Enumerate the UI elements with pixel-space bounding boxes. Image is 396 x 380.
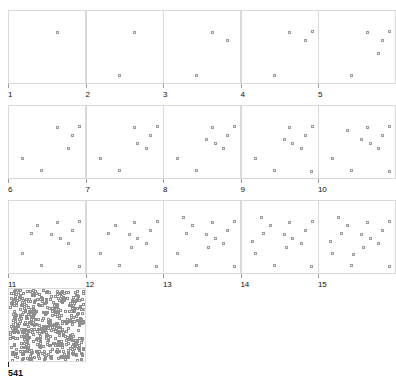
data-point <box>22 311 25 314</box>
data-point <box>21 157 24 160</box>
data-point <box>191 224 194 227</box>
data-point <box>211 221 214 224</box>
panel-label-5: 5 <box>318 90 322 99</box>
data-point <box>254 252 257 255</box>
data-point <box>40 264 43 267</box>
data-point <box>207 246 210 249</box>
data-point <box>26 290 29 293</box>
summary-panel-tick <box>8 362 9 367</box>
data-point <box>13 304 16 307</box>
data-point <box>81 353 84 356</box>
data-point <box>388 125 391 128</box>
data-point <box>211 31 214 34</box>
data-point <box>155 265 158 268</box>
data-point <box>133 126 136 129</box>
panel-tick <box>163 84 164 88</box>
data-point <box>288 31 291 34</box>
data-point <box>360 138 363 141</box>
data-point <box>10 292 13 295</box>
data-point <box>67 242 70 245</box>
panel-tick <box>8 179 9 183</box>
data-point <box>65 339 68 342</box>
data-point <box>44 313 47 316</box>
data-point <box>19 315 22 318</box>
scatter-panel-box <box>86 200 164 274</box>
data-point <box>61 320 64 323</box>
data-point <box>15 348 18 351</box>
panel-label-15: 15 <box>318 280 327 289</box>
panel-tick <box>318 84 319 88</box>
data-point <box>366 221 369 224</box>
scatter-panel-6: 6 <box>8 105 86 179</box>
data-point <box>20 335 23 338</box>
data-point <box>130 246 133 249</box>
data-point <box>63 355 66 358</box>
data-point <box>76 319 79 322</box>
data-point <box>24 346 27 349</box>
data-point <box>64 358 67 361</box>
data-point <box>46 306 49 309</box>
panel-label-1: 1 <box>8 90 12 99</box>
data-point <box>72 350 75 353</box>
data-point <box>331 157 334 160</box>
data-point <box>49 324 52 327</box>
data-point <box>16 324 19 327</box>
scatter-panel-4: 4 <box>241 10 319 84</box>
scatter-panel-14: 14 <box>241 200 319 274</box>
data-point <box>81 338 84 341</box>
data-point <box>69 320 72 323</box>
data-point <box>56 293 59 296</box>
data-point <box>222 147 225 150</box>
data-point <box>288 126 291 129</box>
data-point <box>18 296 21 299</box>
scatter-panel-box <box>8 105 86 179</box>
data-point <box>21 331 24 334</box>
data-point <box>99 157 102 160</box>
data-point <box>80 308 83 311</box>
data-point <box>12 319 15 322</box>
data-point <box>331 252 334 255</box>
panel-label-2: 2 <box>86 90 90 99</box>
data-point <box>145 242 148 245</box>
panel-tick <box>241 84 242 88</box>
data-point <box>67 356 70 359</box>
data-point <box>136 237 139 240</box>
panel-tick <box>86 274 87 278</box>
data-point <box>273 264 276 267</box>
panel-tick <box>241 179 242 183</box>
panel-tick <box>241 274 242 278</box>
data-point <box>136 142 139 145</box>
panel-grid: 123456789101112131415 <box>0 0 389 285</box>
data-point <box>50 233 53 236</box>
scatter-panel-box <box>163 10 241 84</box>
data-point <box>118 264 121 267</box>
data-point <box>329 240 332 243</box>
scatter-panel-15: 15 <box>318 200 396 274</box>
data-point <box>35 318 38 321</box>
data-point <box>81 312 84 315</box>
data-point <box>78 220 81 223</box>
data-point <box>49 335 52 338</box>
data-point <box>145 147 148 150</box>
data-point <box>58 317 61 320</box>
panel-tick <box>86 179 87 183</box>
data-point <box>77 347 80 350</box>
data-point <box>30 349 33 352</box>
data-point <box>388 220 391 223</box>
data-point <box>40 169 43 172</box>
data-point <box>60 314 63 317</box>
data-point <box>51 314 54 317</box>
data-point <box>41 331 44 334</box>
data-point <box>251 240 254 243</box>
data-point <box>23 301 26 304</box>
data-point <box>56 343 59 346</box>
data-point <box>185 232 188 235</box>
data-point <box>15 352 18 355</box>
data-point <box>337 216 340 219</box>
data-point <box>10 325 13 328</box>
data-point <box>80 359 83 362</box>
data-point <box>350 74 353 77</box>
panel-label-12: 12 <box>86 280 95 289</box>
panel-tick <box>163 179 164 183</box>
